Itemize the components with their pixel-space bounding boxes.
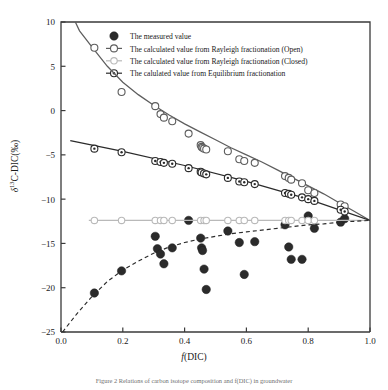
- data-point: [196, 234, 204, 242]
- data-point: [198, 246, 206, 254]
- y-tick-label: −5: [45, 150, 55, 160]
- data-point: [299, 217, 305, 223]
- chart-canvas: 1050−5−10−15−20−250.00.20.40.60.81.0The …: [0, 0, 388, 390]
- series-the-calculated-value-from-rayleigh-fractionation-open: [70, 11, 370, 220]
- y-axis-title-superscript: 13: [8, 182, 15, 188]
- x-axis-title-rest: (DIC): [184, 352, 207, 362]
- data-point: [160, 114, 167, 121]
- series-line: [70, 11, 370, 220]
- legend-item[interactable]: The calculated value from Rayleigh fract…: [106, 57, 308, 66]
- y-tick-label: −15: [41, 239, 56, 249]
- data-point: [285, 243, 293, 251]
- data-point: [243, 181, 245, 183]
- data-point: [224, 148, 231, 155]
- data-point: [120, 151, 122, 153]
- data-point: [110, 32, 118, 40]
- data-point: [290, 194, 292, 196]
- data-point: [298, 255, 306, 263]
- y-tick-label: −25: [41, 327, 56, 337]
- legend-item[interactable]: The calulated value from Equilibrium fra…: [106, 69, 286, 78]
- data-point: [299, 180, 306, 187]
- data-point: [301, 196, 303, 198]
- data-point: [251, 237, 259, 245]
- figure-caption: Figure 2 Relations of carbon isotope com…: [0, 377, 388, 387]
- x-tick-label: 1.0: [364, 336, 376, 346]
- data-point: [288, 217, 294, 223]
- y-tick-label: 0: [51, 106, 56, 116]
- data-point: [252, 217, 258, 223]
- series-line: [70, 141, 370, 221]
- y-tick-label: −10: [41, 195, 56, 205]
- data-point: [118, 88, 125, 95]
- legend-label: The measured value: [130, 32, 192, 41]
- data-point: [187, 167, 189, 169]
- x-tick-label: 0.8: [303, 336, 315, 346]
- data-point: [111, 58, 117, 64]
- data-point: [238, 180, 240, 182]
- data-point: [185, 130, 192, 137]
- legend-label: The calculated value from Rayleigh fract…: [130, 57, 308, 66]
- data-point: [307, 198, 309, 200]
- data-point: [225, 217, 231, 223]
- data-point: [254, 183, 256, 185]
- x-tick-label: 0.2: [117, 336, 128, 346]
- data-point: [118, 217, 124, 223]
- data-point: [203, 217, 209, 223]
- x-tick-label: 0.6: [241, 336, 253, 346]
- x-tick-label: 0.0: [55, 336, 67, 346]
- data-point: [169, 217, 175, 223]
- data-point: [111, 45, 118, 52]
- data-point: [235, 238, 243, 246]
- series-the-calculated-value-from-rayleigh-fractionation-closed: [89, 217, 370, 223]
- legend-label: The calculated value from Rayleigh fract…: [130, 45, 303, 54]
- y-tick-label: −20: [41, 283, 56, 293]
- legend-label: The calulated value from Equilibrium fra…: [130, 69, 286, 78]
- data-point: [163, 162, 165, 164]
- data-point: [91, 217, 97, 223]
- data-point: [152, 103, 159, 110]
- data-point: [251, 159, 258, 166]
- legend-item[interactable]: The measured value: [110, 32, 192, 41]
- data-point: [93, 147, 95, 149]
- data-point: [91, 44, 98, 51]
- data-point: [171, 163, 173, 165]
- data-point: [310, 224, 318, 232]
- data-point: [240, 270, 248, 278]
- data-point: [241, 158, 248, 165]
- series-the-calulated-value-from-equilibrium-fractionation: [70, 141, 370, 221]
- x-axis-title: f(DIC): [0, 352, 388, 362]
- data-point: [90, 289, 98, 297]
- series-line: [63, 220, 370, 332]
- data-point: [169, 118, 176, 125]
- y-axis-title-delta: δ: [10, 188, 20, 192]
- data-point: [313, 200, 315, 202]
- data-point: [154, 160, 156, 162]
- x-tick-label: 0.4: [179, 336, 191, 346]
- data-point: [288, 176, 295, 183]
- y-axis-title: δ13C-DIC(‰): [8, 118, 20, 214]
- figure-container: 1050−5−10−15−20−250.00.20.40.60.81.0The …: [0, 0, 388, 390]
- data-point: [305, 217, 311, 223]
- series-dashed-lower-envelope: [63, 220, 370, 332]
- data-point: [311, 189, 318, 196]
- data-point: [205, 173, 207, 175]
- data-point: [160, 260, 168, 268]
- data-point: [241, 217, 247, 223]
- data-point: [203, 146, 210, 153]
- data-point: [202, 285, 210, 293]
- y-axis-title-rest: C-DIC(‰): [10, 140, 20, 182]
- y-tick-label: 10: [46, 17, 56, 27]
- data-point: [343, 210, 345, 212]
- legend-item[interactable]: The calculated value from Rayleigh fract…: [106, 45, 303, 54]
- data-point: [227, 177, 229, 179]
- data-point: [161, 217, 167, 223]
- legend: The measured valueThe calculated value f…: [106, 32, 308, 79]
- data-point: [287, 255, 295, 263]
- data-point: [200, 265, 208, 273]
- data-point: [151, 232, 159, 240]
- data-point: [168, 244, 176, 252]
- y-tick-label: 5: [51, 62, 56, 72]
- data-point: [311, 217, 317, 223]
